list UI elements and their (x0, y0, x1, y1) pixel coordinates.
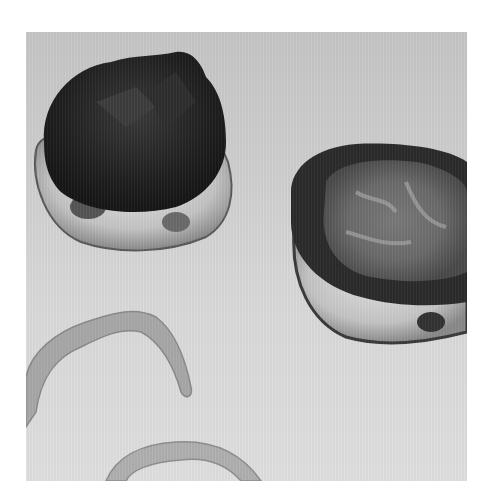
specimen-photo-drawing (26, 32, 467, 481)
left-specimen (35, 52, 231, 251)
curved-strip-lower (106, 442, 261, 481)
specimen-photo (26, 32, 467, 481)
curved-strip-upper (26, 312, 191, 427)
right-specimen (291, 144, 467, 343)
